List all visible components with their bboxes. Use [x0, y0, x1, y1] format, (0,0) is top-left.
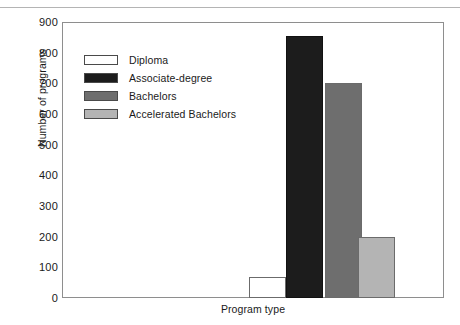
y-tick-label: 600 [2, 108, 58, 120]
y-tick-label: 0 [2, 292, 58, 304]
y-tick-label: 400 [2, 169, 58, 181]
clipped-header-text [0, 0, 460, 7]
chart-screenshot: 0100200300400500600700800900 Number of p… [0, 0, 460, 325]
bar-diploma [249, 277, 286, 298]
y-tick-label: 100 [2, 261, 58, 273]
legend-swatch-icon [84, 73, 118, 83]
y-tick-label: 700 [2, 77, 58, 89]
legend-item: Accelerated Bachelors [84, 105, 236, 123]
bar-associate-degree [286, 36, 323, 298]
legend-label: Bachelors [129, 90, 177, 102]
legend-item: Bachelors [84, 87, 236, 105]
legend-label: Diploma [129, 54, 168, 66]
y-tick-label: 500 [2, 139, 58, 151]
y-axis-title: Number of programs [36, 28, 48, 168]
x-axis-title: Program type [62, 303, 444, 315]
y-tick-label: 200 [2, 231, 58, 243]
bar-bachelors [325, 83, 362, 298]
y-axis-ticks: 0100200300400500600700800900 [0, 22, 58, 298]
bar-accelerated-bachelors [358, 237, 395, 298]
legend-label: Associate-degree [129, 72, 212, 84]
legend-swatch-icon [84, 109, 118, 119]
y-tick-label: 300 [2, 200, 58, 212]
legend-swatch-icon [84, 55, 118, 65]
legend-item: Associate-degree [84, 69, 236, 87]
y-tick-label: 900 [2, 16, 58, 28]
header-divider [0, 7, 460, 8]
chart-legend: DiplomaAssociate-degreeBachelorsAccelera… [84, 51, 236, 123]
legend-item: Diploma [84, 51, 236, 69]
y-tick-label: 800 [2, 47, 58, 59]
legend-label: Accelerated Bachelors [129, 108, 236, 120]
legend-swatch-icon [84, 91, 118, 101]
